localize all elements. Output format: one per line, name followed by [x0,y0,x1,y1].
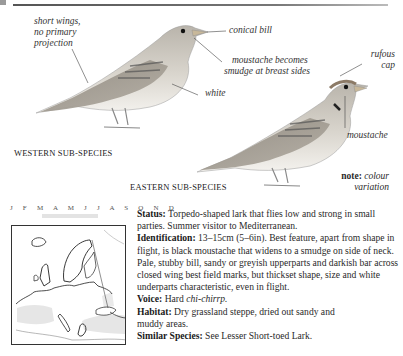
voice-paragraph: Voice: Hard chi-chirrp. [137,293,399,305]
annotation-moustache-smudge: moustache becomes smudge at breast sides [224,55,310,77]
annotation-line: short wings, [34,16,80,27]
status-paragraph: Status: Torpedo-shaped lark that flies l… [137,208,399,232]
presence-bar [42,214,98,218]
similar-species-label: Similar Species: [137,330,203,341]
caption-western-subspecies: WESTERN SUB-SPECIES [14,148,113,158]
similar-species-paragraph: Similar Species: See Lesser Short-toed L… [137,330,399,342]
note-text: variation [354,182,389,192]
identification-label: Identification: [137,232,196,243]
voice-label: Voice: [137,293,162,304]
status-label: Status: [137,208,166,219]
note-label: note: [341,171,362,181]
annotation-conical-bill: conical bill [229,25,272,36]
annotation-line: no primary [34,27,80,38]
annotation-short-wings: short wings, no primary projection [34,16,80,49]
annotation-line: smudge at breast sides [224,66,310,77]
note-text: colour [364,171,389,181]
annotation-rufous-cap: rufous cap [365,49,395,71]
similar-species-text: See Lesser Short-toed Lark. [205,330,312,341]
range-map [11,225,126,345]
annotation-line: moustache becomes [224,55,310,66]
annotation-line: cap [365,60,395,71]
caption-eastern-subspecies: EASTERN SUB-SPECIES [130,182,227,192]
annotation-moustache: moustache [347,130,388,141]
annotation-line: rufous [365,49,395,60]
status-text: Torpedo-shaped lark that flies low and s… [137,208,375,231]
species-description: Status: Torpedo-shaped lark that flies l… [137,208,399,342]
europe-map-icon [12,226,126,345]
identification-paragraph: Identification: 13–15cm (5–6in). Best fe… [137,232,399,293]
eastern-bird-icon [197,64,368,186]
note-colour-variation: note: colour variation [341,171,389,193]
voice-call: chi-chirrp. [186,293,227,304]
annotation-line: projection [34,38,80,49]
habitat-paragraph: Habitat: Dry grassland steppe, dried out… [137,306,362,330]
annotation-white: white [205,88,226,99]
habitat-label: Habitat: [137,306,172,317]
voice-text: Hard [165,293,187,304]
